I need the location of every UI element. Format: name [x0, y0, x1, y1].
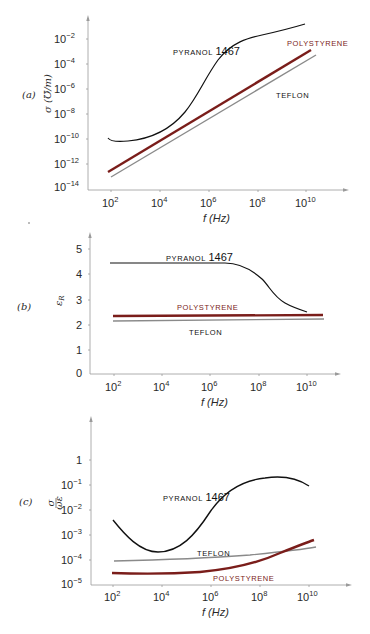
series-label-teflon-a: TEFLON	[276, 91, 309, 100]
x-tick-label: 104	[151, 195, 167, 209]
series-label-teflon-c: TEFLON	[197, 549, 230, 558]
x-tick-labels-a: 102 104 106 108 1010	[102, 195, 316, 209]
panel-label-b: (b)	[17, 301, 31, 312]
x-tick-label: 108	[251, 589, 267, 603]
x-axis-arrow-b	[335, 372, 341, 375]
chart-c: (c) σ ωε 1 10−1 10−2 10−3 10−4 10−5	[19, 416, 352, 618]
y-tick-label: 4	[76, 268, 82, 280]
y-tick-label: 1	[76, 344, 82, 356]
y-tick-label: 3	[76, 294, 82, 306]
y-tick-label: 10−8	[54, 106, 75, 120]
y-axis-arrow-b	[88, 232, 91, 238]
chart-b: (b) εR 5 4 3 2 1 0 102 104 1	[17, 232, 341, 408]
y-tick-labels-a: 10−2 10−4 10−6 10−8 10−10 10−12 10−14	[54, 31, 79, 193]
y-tick-label: 10−1	[61, 477, 82, 491]
y-tick-labels-c: 1 10−1 10−2 10−3 10−4 10−5	[61, 454, 82, 590]
x-axis-arrow-a	[343, 188, 349, 191]
panel-label-c: (c)	[19, 496, 33, 507]
x-tick-labels-b: 102 104 106 108 1010	[105, 379, 317, 393]
y-tick-label: 5	[76, 243, 82, 255]
series-label-pyranol-a: PYRANOL 1467	[173, 45, 240, 57]
y-tick-label: 10−2	[54, 31, 75, 45]
x-axis-title-b: f (Hz)	[201, 396, 228, 408]
x-tick-label: 106	[200, 195, 216, 209]
series-pyranol-a	[108, 24, 305, 141]
y-tick-label: 10−6	[54, 81, 75, 95]
y-tick-labels-b: 5 4 3 2 1 0	[76, 243, 82, 379]
y-axis-arrow-c	[89, 416, 92, 422]
x-tick-label: 1010	[296, 379, 317, 393]
x-tick-label: 102	[104, 589, 120, 603]
series-label-teflon-b: TEFLON	[189, 328, 222, 337]
x-tick-label: 106	[202, 589, 218, 603]
x-tick-label: 104	[153, 589, 169, 603]
series-polystyrene-b	[113, 315, 323, 316]
y-tick-label: 2	[76, 319, 82, 331]
y-tick-label: 10−5	[61, 576, 82, 590]
y-tick-label: 10−2	[61, 502, 82, 516]
y-tick-label: 10−4	[54, 56, 75, 70]
series-label-pyranol-b: PYRANOL 1467	[166, 251, 233, 263]
x-tick-label: 108	[250, 379, 266, 393]
y-tick-label: 10−3	[61, 527, 82, 541]
y-tick-label: 0	[76, 367, 82, 379]
x-axis-arrow-c	[346, 583, 352, 586]
figure: (a) σ (℧/m) 10−2 10−4 10−6 10−8 10−10 10…	[0, 0, 370, 634]
series-teflon-b	[113, 319, 324, 321]
y-tick-label: 10−14	[54, 179, 79, 193]
series-label-polystyrene-c: POLYSTYRENE	[213, 574, 274, 583]
x-tick-label: 1010	[297, 589, 318, 603]
series-pyranol-c	[113, 477, 309, 552]
x-tick-label: 106	[201, 379, 217, 393]
y-tick-label: 10−10	[54, 131, 79, 145]
stray-dot	[28, 222, 30, 224]
series-label-pyranol-c: PYRANOL 1467	[163, 491, 230, 503]
series-teflon-a	[111, 55, 316, 177]
x-tick-label: 102	[105, 379, 121, 393]
y-axis-title-b: εR	[53, 295, 66, 306]
x-tick-labels-c: 102 104 106 108 1010	[104, 589, 318, 603]
x-tick-label: 104	[153, 379, 169, 393]
x-tick-label: 108	[249, 195, 265, 209]
x-axis-title-a: f (Hz)	[203, 212, 230, 224]
x-axis-title-c: f (Hz)	[202, 606, 229, 618]
y-tick-label: 10−12	[54, 156, 79, 170]
series-label-polystyrene-b: POLYSTYRENE	[177, 303, 238, 312]
x-tick-label: 102	[102, 195, 118, 209]
y-tick-label: 10−4	[61, 552, 82, 566]
y-axis-arrow-a	[86, 15, 89, 21]
series-polystyrene-a	[108, 50, 311, 172]
series-label-polystyrene-a: POLYSTYRENE	[287, 39, 348, 48]
x-tick-label: 1010	[295, 195, 316, 209]
y-tick-label: 1	[76, 454, 82, 466]
y-axis-title-a: σ (℧/m)	[42, 74, 53, 113]
chart-a: (a) σ (℧/m) 10−2 10−4 10−6 10−8 10−10 10…	[22, 15, 349, 224]
panel-label-a: (a)	[22, 89, 36, 100]
